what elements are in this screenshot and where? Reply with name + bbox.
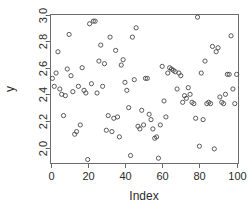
- data-point: [121, 58, 125, 62]
- data-point: [201, 118, 205, 122]
- y-axis-tick-labels: 2.02.22.42.62.83.0: [37, 8, 49, 156]
- data-point: [216, 46, 220, 50]
- plot-frame: [51, 15, 239, 164]
- data-point: [141, 123, 145, 127]
- data-point: [231, 87, 235, 91]
- data-point: [56, 50, 60, 54]
- x-axis-title: Index: [129, 189, 158, 203]
- data-point: [95, 91, 99, 95]
- x-tick-label: 40: [119, 170, 131, 182]
- y-axis-title: y: [3, 86, 17, 92]
- data-point: [108, 35, 112, 39]
- x-tick-label: 100: [228, 170, 246, 182]
- data-point: [76, 84, 80, 88]
- data-point: [147, 112, 151, 116]
- x-tick-label: 0: [48, 170, 54, 182]
- data-point: [54, 71, 58, 75]
- data-point: [61, 114, 65, 118]
- data-point: [106, 114, 110, 118]
- data-point: [218, 95, 222, 99]
- data-point: [203, 59, 207, 63]
- data-point: [123, 80, 127, 84]
- data-point: [229, 34, 233, 38]
- data-point: [114, 48, 118, 52]
- data-point: [186, 86, 190, 90]
- data-point: [233, 102, 237, 106]
- data-point: [71, 90, 75, 94]
- data-point: [140, 108, 144, 112]
- data-point: [166, 71, 170, 75]
- data-point: [97, 59, 101, 63]
- data-point: [149, 118, 153, 122]
- data-point: [125, 88, 129, 92]
- data-point: [214, 50, 218, 54]
- x-tick-label: 20: [82, 170, 94, 182]
- data-point: [164, 115, 168, 119]
- data-point: [69, 74, 73, 78]
- y-tick-label: 2.6: [37, 61, 49, 76]
- scatter-plot-figure: 2.02.22.42.62.83.0 020406080100 Index y: [0, 0, 252, 211]
- data-point: [199, 71, 203, 75]
- x-tick-label: 60: [156, 170, 168, 182]
- data-point: [117, 135, 121, 139]
- data-point: [210, 44, 214, 48]
- data-point: [162, 99, 166, 103]
- data-point: [52, 84, 56, 88]
- data-point: [151, 127, 155, 131]
- data-point: [65, 67, 69, 71]
- data-point: [67, 32, 71, 36]
- data-point: [197, 144, 201, 148]
- data-point: [128, 153, 132, 157]
- data-point: [156, 156, 160, 160]
- data-point: [130, 35, 134, 39]
- data-point: [115, 115, 119, 119]
- data-point: [188, 92, 192, 96]
- data-point: [194, 116, 198, 120]
- data-point: [80, 66, 84, 70]
- data-point: [86, 157, 90, 161]
- data-point: [89, 82, 93, 86]
- data-point: [132, 78, 136, 82]
- data-point: [78, 123, 82, 127]
- data-point: [104, 128, 108, 132]
- data-point: [119, 63, 123, 67]
- data-point: [63, 94, 67, 98]
- data-point: [134, 26, 138, 30]
- data-point: [181, 100, 185, 104]
- y-tick-label: 2.0: [37, 141, 49, 156]
- data-point: [158, 123, 162, 127]
- x-axis-tick-labels: 020406080100: [48, 170, 246, 182]
- plot-canvas: 2.02.22.42.62.83.0 020406080100 Index y: [0, 0, 252, 211]
- y-tick-label: 3.0: [37, 8, 49, 23]
- data-point: [175, 87, 179, 91]
- data-point: [110, 129, 114, 133]
- data-point: [101, 84, 105, 88]
- x-tick-label: 80: [193, 170, 205, 182]
- data-point: [223, 92, 227, 96]
- y-tick-label: 2.4: [37, 87, 49, 102]
- y-tick-label: 2.8: [37, 34, 49, 49]
- data-point: [102, 62, 106, 66]
- data-point: [99, 43, 103, 47]
- data-point: [195, 15, 199, 19]
- y-tick-label: 2.2: [37, 114, 49, 129]
- data-points-group: [50, 15, 238, 162]
- x-axis-ticks: [52, 164, 238, 168]
- data-point: [212, 147, 216, 151]
- data-point: [160, 64, 164, 68]
- data-point: [58, 87, 62, 91]
- data-point: [127, 106, 131, 110]
